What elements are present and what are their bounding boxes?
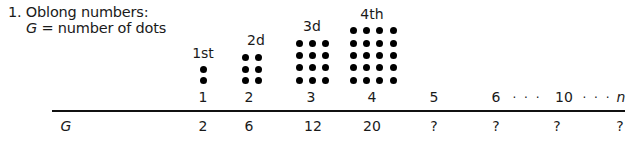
n-value-1: 1 — [199, 89, 208, 105]
g-value-n: ? — [616, 118, 623, 134]
variable-g: G — [26, 20, 37, 36]
n-value-n: n — [617, 89, 626, 105]
g-value-3: 12 — [304, 118, 322, 134]
figure-label-1st: 1st — [192, 45, 214, 61]
g-value-6: ? — [492, 118, 499, 134]
ellipsis-1: · · · — [512, 91, 541, 105]
g-value-2: 6 — [245, 118, 254, 134]
n-value-5: 5 — [430, 89, 439, 105]
figure-label-4th: 4th — [360, 6, 383, 22]
g-value-10: ? — [553, 118, 560, 134]
g-value-1: 2 — [199, 118, 208, 134]
n-value-10: 10 — [555, 89, 573, 105]
row-label-g: G — [61, 118, 72, 134]
n-value-4: 4 — [368, 89, 377, 105]
n-value-2: 2 — [245, 89, 254, 105]
table-divider — [52, 110, 625, 112]
g-value-5: ? — [430, 118, 437, 134]
figure-label-3d: 3d — [303, 18, 321, 34]
n-value-6: 6 — [492, 89, 501, 105]
ellipsis-2: · · · — [582, 91, 611, 105]
subtitle-text: = number of dots — [37, 20, 166, 36]
n-value-3: 3 — [307, 89, 316, 105]
figure-label-2d: 2d — [247, 32, 265, 48]
g-value-4: 20 — [363, 118, 381, 134]
problem-subtitle: G = number of dots — [26, 20, 166, 36]
problem-title: 1. Oblong numbers: — [8, 4, 148, 20]
